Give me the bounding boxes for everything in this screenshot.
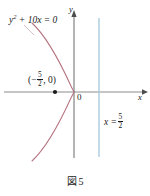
equation-label: y2 + 10x = 0	[9, 14, 57, 26]
point-close-paren: , 0)	[43, 75, 56, 85]
caption-glyph: 図	[67, 176, 77, 187]
caption-number: 5	[79, 176, 84, 187]
point-open-paren: (−	[28, 75, 37, 85]
equation-leader-line	[24, 25, 34, 35]
directrix-fraction: 52	[118, 113, 124, 130]
directrix-equation-lhs: x =	[104, 117, 117, 127]
x-axis-arrowhead	[142, 89, 148, 95]
figure-caption: 図5	[0, 173, 150, 188]
directrix-fraction-denominator: 2	[118, 122, 124, 130]
focus-point-label: (−52, 0)	[28, 71, 56, 88]
figure-container: y2 + 10x = 0 (−52, 0) x =52 0 y x 図5	[0, 0, 150, 196]
x-axis-label: x	[138, 93, 142, 102]
point-fraction-denominator: 2	[37, 80, 43, 88]
directrix-label: x =52	[104, 113, 124, 130]
focus-point-marker	[53, 90, 57, 94]
origin-label: 0	[77, 93, 82, 102]
y-axis-label: y	[69, 5, 73, 14]
point-fraction: 52	[37, 71, 43, 88]
equation-remainder: + 10x = 0	[16, 15, 57, 25]
